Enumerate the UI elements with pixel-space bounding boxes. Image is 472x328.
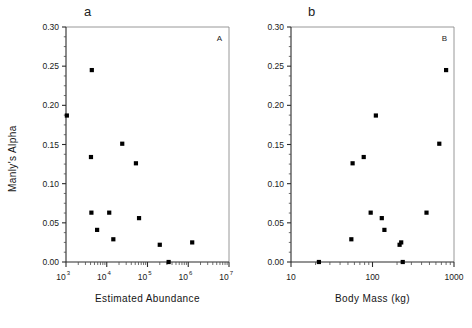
data-point	[65, 113, 69, 117]
data-point	[401, 260, 405, 264]
data-point	[120, 142, 124, 146]
y-tick-label: 0.05	[42, 218, 59, 228]
y-tick-label: 0.00	[42, 257, 59, 267]
y-axis-title-panel-a: Manly's Alpha	[7, 125, 18, 192]
panel-corner-label: A	[217, 34, 223, 43]
x-axis-title: Body Mass (kg)	[335, 293, 410, 304]
data-point	[399, 240, 403, 244]
data-point	[90, 68, 94, 72]
x-tick-label: 10	[56, 272, 66, 282]
y-tick-label: 0.25	[42, 61, 59, 71]
x-axis-title: Estimated Abundance	[95, 293, 200, 304]
data-point	[317, 260, 321, 264]
x-tick-label: 10	[219, 272, 229, 282]
y-tick-label: 0.15	[42, 140, 59, 150]
data-point	[351, 161, 355, 165]
y-tick-label: 0.10	[42, 179, 59, 189]
data-point	[134, 161, 138, 165]
data-point	[167, 260, 171, 264]
data-point	[190, 240, 194, 244]
data-point	[158, 243, 162, 247]
data-point	[437, 142, 441, 146]
y-tick-label: 0.10	[267, 179, 284, 189]
data-point	[89, 211, 93, 215]
data-point	[380, 216, 384, 220]
data-point	[424, 211, 428, 215]
y-tick-label: 0.00	[267, 257, 284, 267]
y-tick-label: 0.15	[267, 140, 284, 150]
x-tick-label: 10	[286, 272, 296, 282]
data-point	[362, 155, 366, 159]
data-point	[137, 216, 141, 220]
x-tick-label: 10	[179, 272, 189, 282]
data-point	[349, 237, 353, 241]
y-tick-label: 0.20	[42, 100, 59, 110]
y-tick-label: 0.25	[267, 61, 284, 71]
data-point	[444, 68, 448, 72]
data-point	[369, 211, 373, 215]
x-tick-label: 10	[138, 272, 148, 282]
data-point	[111, 237, 115, 241]
panel-corner-label: B	[442, 34, 447, 43]
panel-b-letter: b	[308, 4, 315, 19]
data-point	[374, 113, 378, 117]
y-tick-label: 0.30	[267, 22, 284, 32]
x-tick-label: 100	[365, 272, 379, 282]
x-tick-label: 1000	[445, 272, 464, 282]
y-tick-label: 0.20	[267, 100, 284, 110]
figure-background	[0, 0, 472, 328]
y-tick-label: 0.05	[267, 218, 284, 228]
data-point	[107, 211, 111, 215]
data-point	[95, 228, 99, 232]
y-tick-label: 0.30	[42, 22, 59, 32]
panel-a-letter: a	[84, 4, 92, 19]
data-point	[89, 155, 93, 159]
x-tick-label: 10	[97, 272, 107, 282]
data-point	[382, 228, 386, 232]
scatter-figure: 0.000.050.100.150.200.250.30103104105106…	[0, 0, 472, 328]
